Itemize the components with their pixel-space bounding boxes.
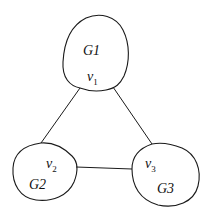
- component-g3-outline: [132, 143, 199, 206]
- graph-diagram: G1 v1 v2 G2 v3 G3: [0, 0, 208, 213]
- component-g3-label: G3: [157, 181, 174, 196]
- vertex-v2-label: v2: [46, 156, 57, 174]
- edge-v1-v2: [41, 88, 80, 143]
- edge-v1-v3: [113, 87, 152, 144]
- vertex-v2-subscript: 2: [52, 164, 57, 174]
- vertex-v1-subscript: 1: [93, 77, 98, 87]
- vertex-v3-subscript: 3: [151, 164, 156, 174]
- component-g2-label: G2: [29, 177, 46, 192]
- vertex-v3-label: v3: [145, 156, 156, 174]
- component-g1-label: G1: [83, 43, 100, 58]
- vertex-v1-label: v1: [87, 69, 98, 87]
- edge-v2-v3: [76, 167, 132, 169]
